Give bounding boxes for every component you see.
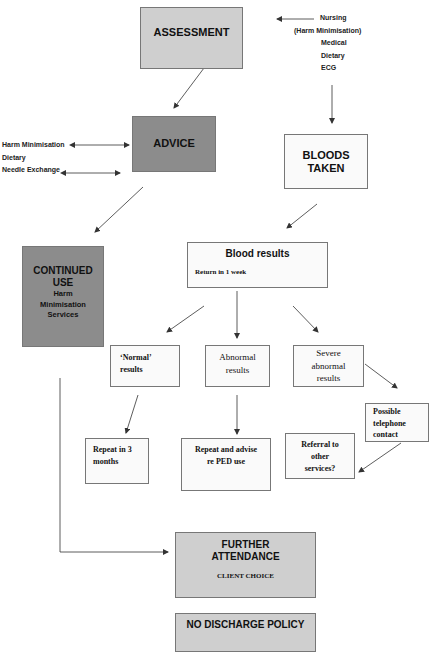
continued-use-line4: Minimisation (23, 300, 103, 311)
blood-results-title: Blood results (188, 248, 327, 259)
referral-box: Referral to other services? (285, 433, 355, 479)
abnormal-results-line1: Abnormal (206, 351, 269, 364)
continued-use-line2: USE (23, 277, 103, 289)
further-attendance-box: FURTHER ATTENDANCE CLIENT CHOICE (175, 532, 316, 598)
referral-line3: services? (286, 463, 354, 475)
input-nursing: Nursing (294, 12, 361, 25)
repeat-3-months-line1: Repeat in 3 (93, 444, 148, 456)
blood-results-subtitle: Return in 1 week (195, 268, 327, 276)
telephone-contact-line1: Possible (373, 406, 428, 418)
continued-use-line1: CONTINUED (23, 265, 103, 277)
referral-line1: Referral to (286, 439, 354, 451)
continued-use-box: CONTINUED USE Harm Minimisation Services (22, 246, 104, 347)
bloods-taken-line1: BLOODS (285, 149, 367, 162)
input-harm-minimisation: (Harm Minimisation) (294, 25, 361, 38)
abnormal-results-box: Abnormal results (205, 345, 270, 387)
normal-results-box: ‘Normal’ results (110, 345, 180, 387)
input-ecg: ECG (294, 62, 361, 75)
continued-use-line5: Services (23, 310, 103, 321)
advice-input-needle-exchange: Needle Exchange (2, 164, 65, 177)
further-attendance-client-choice: CLIENT CHOICE (176, 572, 315, 580)
advice-box: ADVICE (132, 116, 216, 172)
telephone-contact-box: Possible telephone contact (365, 403, 429, 442)
input-medical: Medical (294, 37, 361, 50)
bloods-taken-line2: TAKEN (285, 162, 367, 175)
referral-line2: other (286, 451, 354, 463)
repeat-advise-line2: re PED use (182, 456, 270, 468)
input-dietary: Dietary (294, 50, 361, 63)
assessment-box: ASSESSMENT (140, 7, 243, 69)
severe-results-line3: results (294, 372, 363, 385)
advice-title: ADVICE (153, 137, 195, 149)
advice-input-harm-minimisation: Harm Minimisation (2, 139, 65, 152)
repeat-advise-line1: Repeat and advise (182, 444, 270, 456)
assessment-title: ASSESSMENT (154, 26, 230, 38)
further-attendance-line2: ATTENDANCE (176, 551, 315, 563)
no-discharge-box: NO DISCHARGE POLICY (175, 613, 316, 652)
severe-results-box: Severe abnormal results (293, 345, 364, 387)
severe-results-line1: Severe (294, 347, 363, 360)
telephone-contact-line2: telephone (373, 418, 428, 430)
further-attendance-line1: FURTHER (176, 539, 315, 551)
advice-inputs-list: Harm Minimisation Dietary Needle Exchang… (2, 139, 65, 177)
blood-results-box: Blood results Return in 1 week (187, 242, 328, 288)
assessment-inputs-list: Nursing (Harm Minimisation) Medical Diet… (294, 12, 361, 75)
continued-use-line3: Harm (23, 289, 103, 300)
telephone-contact-line3: contact (373, 429, 428, 441)
severe-results-line2: abnormal (294, 360, 363, 373)
advice-input-dietary: Dietary (2, 152, 65, 165)
normal-results-line2: results (120, 364, 179, 376)
normal-results-line1: ‘Normal’ (120, 352, 179, 364)
no-discharge-title: NO DISCHARGE POLICY (187, 619, 305, 630)
repeat-3-months-line2: months (93, 456, 148, 468)
abnormal-results-line2: results (206, 364, 269, 377)
repeat-advise-box: Repeat and advise re PED use (181, 438, 271, 491)
repeat-3-months-box: Repeat in 3 months (85, 438, 149, 484)
bloods-taken-box: BLOODS TAKEN (284, 134, 368, 189)
